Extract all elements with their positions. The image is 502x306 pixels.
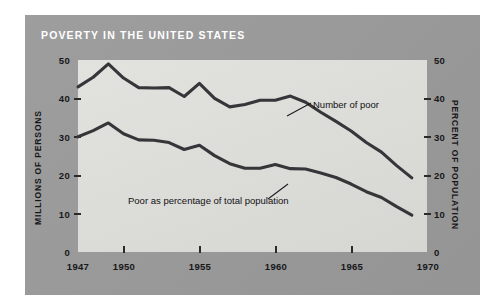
annotation-number-of-poor: Number of poor bbox=[313, 100, 379, 110]
y-tick-mark-right-10 bbox=[424, 213, 431, 215]
x-tick-mark-1955 bbox=[199, 246, 201, 253]
y-axis-left-title: MILLIONS OF PERSONS bbox=[33, 110, 43, 225]
x-tick-label-1965: 1965 bbox=[332, 262, 372, 272]
y-tick-mark-left-30 bbox=[74, 136, 81, 138]
y-tick-label-right-10: 10 bbox=[434, 210, 456, 220]
y-tick-label-right-0: 0 bbox=[434, 248, 456, 258]
y-tick-mark-left-10 bbox=[74, 213, 81, 215]
y-tick-label-right-40: 40 bbox=[434, 94, 456, 104]
x-tick-label-1947: 1947 bbox=[58, 262, 98, 272]
x-tick-label-1960: 1960 bbox=[256, 262, 296, 272]
y-tick-label-left-20: 20 bbox=[48, 171, 70, 181]
y-tick-label-right-20: 20 bbox=[434, 171, 456, 181]
y-tick-mark-left-40 bbox=[74, 98, 81, 100]
y-tick-label-left-50: 50 bbox=[48, 56, 70, 66]
y-tick-label-right-50: 50 bbox=[434, 56, 456, 66]
y-tick-mark-left-20 bbox=[74, 175, 81, 177]
annotation-poor-percentage: Poor as percentage of total population bbox=[128, 196, 289, 206]
plot-area bbox=[78, 60, 427, 252]
y-tick-mark-right-20 bbox=[424, 175, 431, 177]
x-tick-label-1950: 1950 bbox=[104, 262, 144, 272]
page-title: POVERTY IN THE UNITED STATES bbox=[41, 29, 245, 41]
x-tick-label-1955: 1955 bbox=[180, 262, 220, 272]
y-tick-label-left-40: 40 bbox=[48, 94, 70, 104]
chart-figure: POVERTY IN THE UNITED STATES MILLIONS OF… bbox=[0, 0, 502, 306]
y-tick-mark-right-40 bbox=[424, 98, 431, 100]
y-tick-mark-right-30 bbox=[424, 136, 431, 138]
y-tick-label-left-10: 10 bbox=[48, 210, 70, 220]
x-tick-mark-1960 bbox=[275, 246, 277, 253]
y-tick-label-left-0: 0 bbox=[48, 248, 70, 258]
x-tick-label-1970: 1970 bbox=[408, 262, 448, 272]
x-tick-mark-1950 bbox=[123, 246, 125, 253]
x-tick-mark-1965 bbox=[351, 246, 353, 253]
y-tick-label-right-30: 30 bbox=[434, 133, 456, 143]
y-tick-label-left-30: 30 bbox=[48, 133, 70, 143]
